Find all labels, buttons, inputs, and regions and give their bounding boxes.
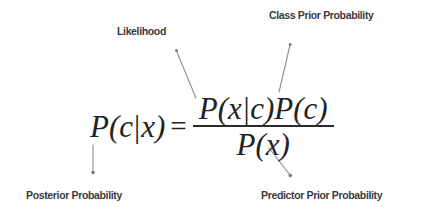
bayes-theorem-figure: Likelihood Class Prior Probability Poste…	[0, 0, 434, 219]
equation-left-hand-side: P(c|x)	[90, 111, 165, 142]
fraction-numerator: P(x|c)P(c)	[193, 93, 334, 125]
lhs-evidence-variable: x	[141, 111, 155, 142]
equals-sign: =	[165, 112, 189, 141]
class-prior-connector-arrow-icon	[279, 43, 292, 92]
equation-fraction: P(x|c)P(c) P(x)	[193, 93, 334, 160]
fraction-denominator: P(x)	[231, 127, 296, 160]
bayes-equation: P(c|x) = P(x|c)P(c) P(x)	[90, 93, 334, 160]
label-posterior-probability: Posterior Probability	[26, 189, 122, 202]
lhs-close-paren: )	[155, 111, 165, 142]
lhs-open-paren: (	[109, 111, 119, 142]
label-class-prior-probability: Class Prior Probability	[269, 9, 374, 22]
label-predictor-prior-probability: Predictor Prior Probability	[261, 189, 382, 202]
label-likelihood: Likelihood	[117, 25, 166, 38]
likelihood-connector-arrow-icon	[175, 49, 196, 98]
lhs-class-variable: c	[119, 111, 133, 142]
lhs-p-symbol: P	[90, 111, 109, 142]
